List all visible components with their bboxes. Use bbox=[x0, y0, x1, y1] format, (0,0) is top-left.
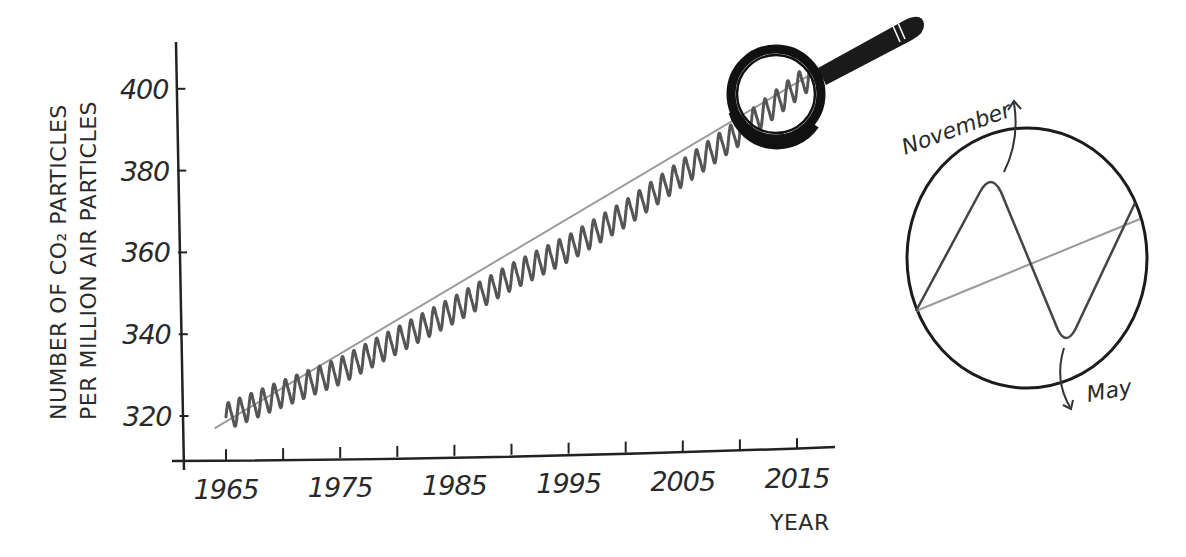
co2-line-chart: NUMBER OF CO₂ PARTICLES PER MILLION AIR … bbox=[0, 0, 1186, 557]
y-tick-label: 360 bbox=[121, 237, 170, 268]
x-axis-ticks: 196519751985199520052015 bbox=[194, 438, 830, 505]
co2-seasonal-curve bbox=[226, 63, 818, 427]
y-axis-title-line1: NUMBER OF CO₂ PARTICLES bbox=[46, 104, 71, 420]
x-tick-label: 2015 bbox=[765, 463, 830, 494]
inset-zoom-circle: November May bbox=[898, 96, 1147, 409]
x-tick-label: 1985 bbox=[422, 470, 487, 501]
x-axis-title: YEAR bbox=[769, 510, 830, 535]
y-axis-title: NUMBER OF CO₂ PARTICLES PER MILLION AIR … bbox=[46, 101, 101, 420]
y-tick-label: 320 bbox=[123, 401, 172, 432]
y-tick-label: 380 bbox=[121, 156, 170, 187]
y-tick-label: 340 bbox=[122, 319, 171, 350]
may-arrow-icon bbox=[1060, 348, 1070, 407]
november-label: November bbox=[898, 96, 1016, 159]
y-tick-label: 400 bbox=[120, 74, 169, 105]
x-tick-label: 2005 bbox=[650, 466, 715, 497]
x-tick-label: 1965 bbox=[194, 474, 259, 505]
may-label: May bbox=[1085, 374, 1135, 407]
co2-chart-illustration: NUMBER OF CO₂ PARTICLES PER MILLION AIR … bbox=[0, 0, 1186, 557]
trend-line bbox=[215, 70, 818, 428]
inset-annual-cycle-curve bbox=[916, 182, 1135, 338]
x-tick-label: 1975 bbox=[308, 472, 373, 503]
y-axis-title-line2: PER MILLION AIR PARTICLES bbox=[76, 101, 101, 420]
x-tick-label: 1995 bbox=[536, 468, 601, 499]
